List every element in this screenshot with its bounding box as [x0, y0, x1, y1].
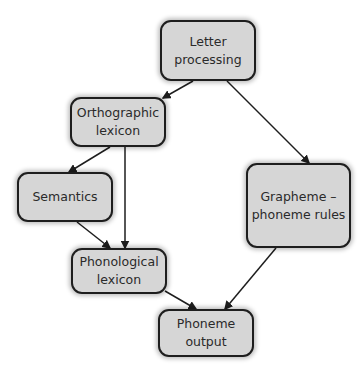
node-phonological-lexicon: Phonological lexicon — [71, 248, 167, 294]
node-label: Letter processing — [174, 33, 241, 69]
node-grapheme-phoneme-rules: Grapheme – phoneme rules — [246, 163, 351, 248]
node-label: Semantics — [32, 188, 97, 206]
edge-letter-gpc — [227, 81, 309, 163]
node-label: Phonological lexicon — [79, 253, 158, 289]
edge-gpc-output — [225, 248, 276, 309]
node-label: Phoneme output — [177, 315, 236, 351]
edge-ortho-sem — [69, 147, 110, 172]
node-label: Grapheme – phoneme rules — [252, 188, 346, 224]
node-label: Orthographic lexicon — [77, 104, 159, 140]
edge-letter-ortho — [163, 81, 193, 98]
node-semantics: Semantics — [17, 172, 113, 222]
edge-sem-phon — [77, 222, 110, 248]
node-letter-processing: Letter processing — [160, 20, 256, 81]
node-phoneme-output: Phoneme output — [158, 309, 254, 357]
node-orthographic-lexicon: Orthographic lexicon — [70, 97, 166, 147]
edge-phon-output — [165, 291, 196, 309]
